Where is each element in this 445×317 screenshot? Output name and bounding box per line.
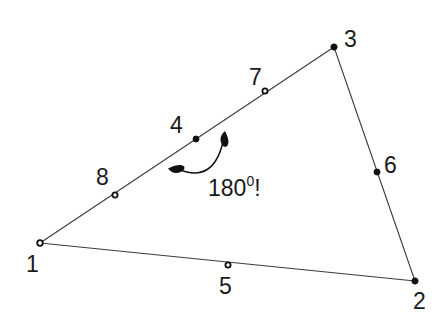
point-label-8: 8 <box>96 166 109 189</box>
point-marker-4 <box>193 136 199 142</box>
geometry-figure: 1 2 3 4 5 6 7 8 1800! <box>0 0 445 317</box>
point-label-7: 7 <box>249 66 262 89</box>
edge-1-to-3 <box>40 47 334 243</box>
point-marker-5 <box>225 262 230 267</box>
vertex-marker-1 <box>37 240 43 246</box>
angle-value: 180 <box>208 175 246 201</box>
point-marker-8 <box>112 192 117 197</box>
vertex-label-3: 3 <box>344 28 357 51</box>
vertex-marker-2 <box>412 278 418 284</box>
edge-3-to-2 <box>334 47 415 281</box>
exclamation-mark: ! <box>254 175 260 201</box>
vertex-marker-3 <box>331 44 337 50</box>
degree-superscript: 0 <box>246 173 254 189</box>
vertex-label-2: 2 <box>413 290 426 313</box>
point-label-5: 5 <box>219 275 232 298</box>
point-label-6: 6 <box>384 154 397 177</box>
point-marker-7 <box>262 88 267 93</box>
angle-annotation: 1800! <box>208 175 261 200</box>
triangle-diagram-svg <box>0 0 445 317</box>
rotation-arrowhead-bottom <box>168 165 184 173</box>
point-marker-6 <box>374 169 380 175</box>
vertex-label-1: 1 <box>26 253 39 276</box>
point-label-4: 4 <box>170 114 183 137</box>
